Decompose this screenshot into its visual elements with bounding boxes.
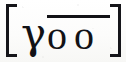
- overlined-vowel-group: oo: [47, 15, 110, 55]
- open-square-bracket-icon: [6, 4, 17, 57]
- gamma-glyph: γ: [21, 13, 46, 55]
- double-o-glyph: oo: [47, 16, 101, 56]
- close-bracket-stem: [118, 4, 121, 57]
- open-bracket-stem: [6, 4, 9, 57]
- close-bracket-bottom-serif: [110, 54, 121, 57]
- close-square-bracket-icon: [110, 4, 121, 57]
- open-bracket-bottom-serif: [6, 54, 17, 57]
- bracketed-phonetic-notation: γ oo: [0, 0, 126, 62]
